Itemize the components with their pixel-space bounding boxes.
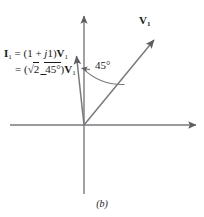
- angle-magnitude: 45°: [45, 63, 60, 75]
- vector-label-v1-subscript: 1: [147, 20, 151, 28]
- angle-phasor-notation: 45°: [40, 62, 60, 76]
- diagram-canvas: [0, 0, 204, 217]
- vector-v1: [84, 40, 154, 125]
- angle-arc-arrow: [82, 68, 91, 69]
- equation-lhs-subscript: 1: [8, 53, 12, 61]
- figure-caption: (b): [0, 198, 204, 209]
- vector-label-v1-symbol: V: [139, 14, 147, 26]
- equation-v-symbol: V: [57, 47, 65, 59]
- equation-equals-polar: = (: [15, 63, 28, 75]
- angle-overbar: [44, 62, 60, 63]
- angle-label-45: 45°: [95, 59, 110, 71]
- vector-i1: [77, 56, 85, 125]
- vector-label-v1: V1: [139, 14, 150, 26]
- equation-v-subscript-2: 1: [72, 69, 76, 77]
- equation-imag-part: 1): [47, 47, 56, 59]
- equation-line-2: = (√245°)V1: [4, 62, 76, 78]
- phasor-diagram-figure: I1 = (1 + j1)V1 = (√245°)V1 V1 45° (b): [0, 0, 204, 217]
- equation-line-1: I1 = (1 + j1)V1: [4, 46, 76, 62]
- radicand: 2: [33, 62, 40, 75]
- equation-equals-open: = (1 +: [12, 47, 45, 59]
- equation-v-subscript: 1: [65, 53, 69, 61]
- equation-i1: I1 = (1 + j1)V1 = (√245°)V1: [4, 46, 76, 78]
- equation-v-symbol-2: V: [64, 63, 72, 75]
